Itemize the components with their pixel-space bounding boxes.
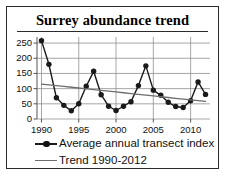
y-tick-label: 150	[8, 68, 32, 78]
data-point	[113, 108, 118, 113]
data-point	[76, 101, 81, 106]
data-point	[61, 103, 66, 108]
data-point	[121, 104, 126, 109]
data-point	[106, 104, 111, 109]
y-tick-label: 250	[8, 38, 32, 48]
data-point	[143, 63, 148, 68]
data-point	[203, 92, 208, 97]
y-tick-label: 50	[8, 99, 32, 109]
y-tick-label: 0	[8, 114, 32, 124]
data-point	[173, 104, 178, 109]
x-tick-label: 1990	[25, 125, 57, 135]
chart-frame: Surrey abundance trend 05010015020025019…	[6, 6, 219, 169]
data-point	[128, 99, 133, 104]
x-tick-label: 2010	[175, 125, 207, 135]
chart-title: Surrey abundance trend	[7, 12, 218, 29]
data-point	[98, 92, 103, 97]
data-point	[91, 69, 96, 74]
data-point	[180, 105, 185, 110]
data-point	[39, 38, 44, 43]
x-tick-label: 1995	[63, 125, 95, 135]
data-point	[188, 98, 193, 103]
legend-item-series: Average annual transect index	[7, 135, 218, 152]
data-point	[136, 83, 141, 88]
data-point	[166, 100, 171, 105]
legend-line-marker-icon	[35, 138, 57, 150]
data-point	[54, 95, 59, 100]
legend-label-series: Average annual transect index	[59, 138, 214, 150]
y-tick-label: 200	[8, 53, 32, 63]
plot-area: 05010015020025019901995200020052010	[7, 31, 218, 141]
legend-label-trend: Trend 1990-2012	[59, 155, 147, 167]
legend-line-icon	[35, 155, 57, 167]
series-line-1	[41, 84, 205, 101]
x-tick-label: 2000	[100, 125, 132, 135]
y-tick-label: 100	[8, 84, 32, 94]
data-point	[46, 62, 51, 67]
data-point	[195, 79, 200, 84]
data-point	[151, 87, 156, 92]
x-tick-label: 2005	[137, 125, 169, 135]
legend-item-trend: Trend 1990-2012	[7, 152, 218, 169]
series-line-0	[41, 41, 205, 111]
chart-screenshot: Surrey abundance trend 05010015020025019…	[0, 0, 227, 176]
data-point	[69, 108, 74, 113]
chart-legend: Average annual transect index Trend 1990…	[7, 135, 218, 169]
